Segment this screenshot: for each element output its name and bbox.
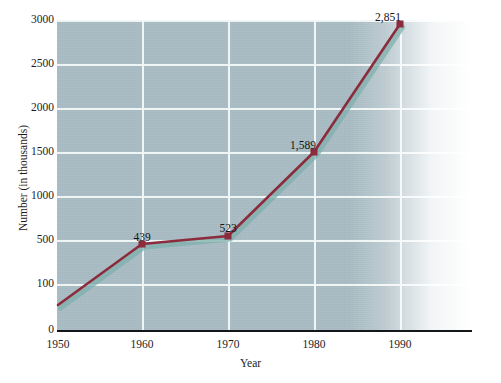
x-tick-1970: 1970 bbox=[198, 338, 258, 350]
gridline-y-100 bbox=[57, 284, 470, 286]
x-tick-1960: 1960 bbox=[112, 338, 172, 350]
gridline-x-1960 bbox=[142, 20, 144, 330]
gridline-x-1970 bbox=[228, 20, 230, 330]
x-axis-title: Year bbox=[0, 357, 501, 369]
gridline-x-1980 bbox=[314, 20, 316, 330]
x-tick-1990: 1990 bbox=[370, 338, 430, 350]
x-axis-line bbox=[57, 330, 472, 332]
y-tick-100: 100 bbox=[2, 278, 54, 290]
data-label-1960: 439 bbox=[133, 231, 150, 243]
y-tick-0: 0 bbox=[2, 324, 54, 336]
plot-area bbox=[57, 20, 470, 330]
gridline-y-2000 bbox=[57, 108, 470, 110]
data-label-1980: 1,589 bbox=[290, 139, 316, 151]
y-tick-3000: 3000 bbox=[2, 14, 54, 26]
y-axis-title: Number (in thousands) bbox=[17, 78, 29, 278]
gridline-y-1000 bbox=[57, 196, 470, 198]
gridline-x-1990 bbox=[400, 20, 402, 330]
gridline-y-500 bbox=[57, 240, 470, 242]
data-label-1970: 523 bbox=[219, 222, 236, 234]
x-tick-1950: 1950 bbox=[28, 338, 88, 350]
y-tick-2500: 2500 bbox=[2, 58, 54, 70]
gridline-y-2500 bbox=[57, 64, 470, 66]
gridline-y-1500 bbox=[57, 152, 470, 154]
x-tick-1980: 1980 bbox=[284, 338, 344, 350]
gridline-y-3000 bbox=[57, 20, 470, 22]
data-label-1990: 2,851 bbox=[375, 11, 401, 23]
line-chart: 439 523 1,589 2,851 3000 2500 2000 1500 … bbox=[0, 0, 501, 383]
